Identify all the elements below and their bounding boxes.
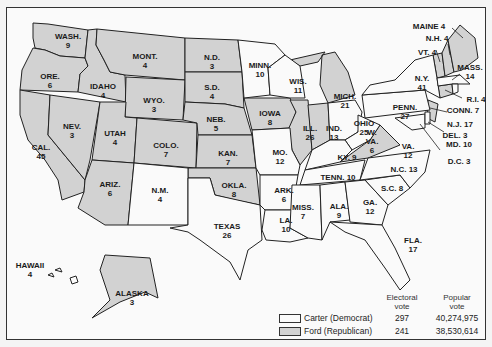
label-ny: N.Y.41: [415, 74, 430, 92]
label-nh: N.H. 4: [426, 34, 449, 43]
state-del[interactable]: [425, 112, 430, 124]
label-wash: WASH.9: [55, 32, 81, 50]
state-hawaii[interactable]: [48, 268, 78, 284]
carter-electoral-vote: 297: [395, 313, 409, 323]
label-fla: FLA.17: [404, 236, 422, 254]
label-nc: N.C. 13: [390, 165, 417, 174]
label-utah: UTAH4: [104, 129, 126, 147]
state-alaska[interactable]: [92, 255, 158, 318]
label-mont: MONT.4: [133, 52, 158, 70]
label-wis: WIS.11: [289, 77, 306, 95]
label-va: VA.12: [402, 142, 415, 160]
label-nm: N.M.4: [152, 186, 169, 204]
label-mich: MICH.21: [334, 92, 357, 110]
swatch-carter: [279, 314, 301, 323]
label-ky: KY. 9: [337, 153, 356, 162]
label-iowa: IOWA8: [259, 109, 280, 127]
label-tenn: TENN. 10: [320, 173, 355, 182]
label-kan: KAN.7: [218, 149, 238, 167]
label-mass: MASS.14: [457, 63, 482, 81]
legend-label-carter: Carter (Democrat): [304, 313, 372, 323]
label-idaho: IDAHO4: [90, 82, 116, 100]
label-wva: W. VA.6: [362, 128, 382, 155]
label-ill: ILL.26: [303, 124, 317, 142]
ford-popular-vote: 38,530,614: [436, 326, 479, 336]
label-neb: NEB.5: [206, 115, 225, 133]
label-dc: D.C. 3: [448, 157, 471, 166]
label-ark: ARK.6: [274, 186, 294, 204]
label-cal: CAL.45: [32, 143, 51, 161]
label-nd: N.D.3: [204, 53, 220, 71]
label-nj: N.J. 17: [447, 120, 473, 129]
label-mo: MO.12: [272, 148, 287, 166]
legend-label-ford: Ford (Republican): [304, 326, 372, 336]
legend-row-ford: Ford (Republican): [279, 325, 372, 337]
label-wyo: WYO.3: [143, 96, 164, 114]
label-ri: R.I. 4: [466, 95, 485, 104]
swatch-ford: [279, 327, 301, 336]
label-colo: COLO.7: [153, 141, 178, 159]
label-ariz: ARIZ.6: [100, 180, 121, 198]
carter-popular-vote: 40,274,975: [436, 313, 479, 323]
label-ore: ORE.6: [40, 72, 60, 90]
label-sc: S.C. 8: [381, 184, 403, 193]
label-vt: VT. 4: [418, 48, 436, 57]
state-ri[interactable]: [452, 84, 458, 94]
label-del: DEL. 3: [443, 131, 468, 140]
label-ind: IND.13: [326, 124, 342, 142]
label-conn: CONN. 7: [447, 106, 479, 115]
label-nev: NEV.3: [63, 122, 81, 140]
label-md: MD. 10: [446, 140, 472, 149]
label-hawaii: HAWAII4: [16, 261, 44, 279]
label-penn: PENN.27: [393, 103, 417, 121]
label-alaska: ALASKA3: [115, 289, 148, 307]
label-miss: MISS.7: [292, 203, 314, 221]
label-minn: MINN.10: [249, 61, 272, 79]
label-ala: ALA.9: [330, 202, 349, 220]
label-okla: OKLA.8: [222, 181, 247, 199]
label-sd: S.D.4: [204, 83, 220, 101]
state-fla[interactable]: [330, 222, 410, 290]
legend-header-popular: Popularvote: [443, 293, 471, 311]
legend-row-carter: Carter (Democrat): [279, 312, 372, 324]
label-la: LA.10: [280, 216, 293, 234]
label-texas: TEXAS26: [214, 222, 241, 240]
label-ga: GA.12: [363, 198, 377, 216]
legend-header-electoral: Electoralvote: [386, 293, 417, 311]
ford-electoral-vote: 241: [395, 326, 409, 336]
label-maine: MAINE 4: [413, 22, 445, 31]
